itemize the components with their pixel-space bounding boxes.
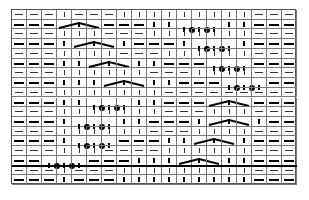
knit-stitch <box>57 98 72 108</box>
purl-stitch <box>252 166 267 176</box>
knit-stitch <box>87 127 102 137</box>
purl-stitch <box>42 78 57 88</box>
knit-stitch <box>147 107 162 117</box>
purl-stitch <box>282 10 297 20</box>
knit-stitch <box>177 136 192 146</box>
symbol-cell <box>222 136 237 146</box>
purl-stitch <box>27 49 42 59</box>
chart-row <box>12 107 297 117</box>
knit-stitch <box>102 49 117 59</box>
purl-stitch <box>27 117 42 127</box>
knit-stitch <box>57 175 72 185</box>
knit-stitch <box>132 166 147 176</box>
purl-stitch <box>42 88 57 98</box>
purl-stitch <box>27 29 42 39</box>
knit-stitch <box>177 175 192 185</box>
knit-stitch <box>87 49 102 59</box>
purl-stitch <box>132 20 147 30</box>
symbol-cell <box>237 117 252 127</box>
knit-stitch <box>72 98 87 108</box>
knit-stitch <box>147 78 162 88</box>
purl-stitch <box>87 175 102 185</box>
knit-stitch <box>192 29 207 39</box>
purl-stitch <box>267 88 282 98</box>
knit-stitch <box>162 136 177 146</box>
purl-stitch <box>252 107 267 117</box>
purl-stitch <box>267 136 282 146</box>
symbol-cell <box>222 39 237 49</box>
chart-row <box>12 166 297 176</box>
knit-stitch <box>117 88 132 98</box>
purl-stitch <box>267 107 282 117</box>
purl-stitch <box>117 49 132 59</box>
purl-stitch <box>27 146 42 156</box>
chart-row <box>12 175 297 185</box>
symbol-cell <box>237 98 252 108</box>
purl-stitch <box>147 49 162 59</box>
purl-stitch <box>12 78 27 88</box>
knit-stitch <box>162 146 177 156</box>
knit-stitch <box>222 29 237 39</box>
purl-stitch <box>252 10 267 20</box>
knit-stitch <box>87 107 102 117</box>
purl-stitch <box>282 175 297 185</box>
purl-stitch <box>252 68 267 78</box>
knit-stitch <box>162 175 177 185</box>
symbol-cell <box>207 20 222 30</box>
purl-stitch <box>102 20 117 30</box>
purl-stitch <box>252 127 267 137</box>
symbol-cell <box>117 98 132 108</box>
purl-stitch <box>132 49 147 59</box>
purl-stitch <box>252 39 267 49</box>
knit-stitch <box>177 166 192 176</box>
knit-stitch <box>147 29 162 39</box>
purl-stitch <box>12 68 27 78</box>
purl-stitch <box>267 29 282 39</box>
purl-stitch <box>237 88 252 98</box>
purl-stitch <box>12 29 27 39</box>
purl-stitch <box>102 29 117 39</box>
purl-stitch <box>12 107 27 117</box>
purl-stitch <box>27 20 42 30</box>
purl-stitch <box>147 127 162 137</box>
knit-stitch <box>117 68 132 78</box>
purl-stitch <box>252 49 267 59</box>
purl-stitch <box>177 88 192 98</box>
symbol-cell <box>132 78 147 88</box>
purl-stitch <box>162 117 177 127</box>
purl-stitch <box>117 20 132 30</box>
knit-stitch <box>102 88 117 98</box>
knit-stitch <box>72 146 87 156</box>
knit-stitch <box>207 10 222 20</box>
purl-stitch <box>27 78 42 88</box>
chart-row <box>12 39 297 49</box>
purl-stitch <box>267 39 282 49</box>
knit-stitch <box>132 127 147 137</box>
purl-stitch <box>162 68 177 78</box>
purl-stitch <box>162 107 177 117</box>
knit-stitch <box>237 175 252 185</box>
knit-stitch <box>162 10 177 20</box>
purl-stitch <box>27 68 42 78</box>
purl-stitch <box>282 166 297 176</box>
purl-stitch <box>102 166 117 176</box>
symbol-cell <box>102 98 117 108</box>
purl-stitch <box>267 166 282 176</box>
purl-stitch <box>162 127 177 137</box>
purl-stitch <box>102 10 117 20</box>
knit-stitch <box>237 68 252 78</box>
purl-stitch <box>42 127 57 137</box>
knit-stitch <box>57 146 72 156</box>
knit-stitch <box>207 166 222 176</box>
knit-stitch <box>237 20 252 30</box>
purl-stitch <box>72 10 87 20</box>
symbol-cell <box>102 136 117 146</box>
purl-stitch <box>192 98 207 108</box>
purl-stitch <box>27 107 42 117</box>
knit-stitch <box>57 166 72 176</box>
symbol-cell <box>72 20 87 30</box>
purl-stitch <box>267 49 282 59</box>
purl-stitch <box>267 59 282 69</box>
symbol-cell <box>117 59 132 69</box>
purl-stitch <box>177 78 192 88</box>
